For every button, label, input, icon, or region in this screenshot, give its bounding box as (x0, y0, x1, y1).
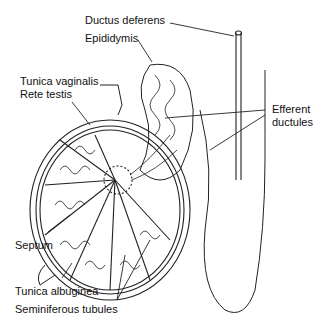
label-ductus-deferens: Ductus deferens (85, 14, 165, 26)
label-efferent-ductules-line1: Efferent (272, 103, 310, 115)
ductus-epididymis (200, 70, 265, 313)
label-septum: Septum (15, 239, 53, 251)
label-tunica-albuginea: Tunica albuginea (15, 285, 98, 297)
label-seminiferous-tubules: Seminiferous tubules (15, 303, 118, 315)
label-tunica-vaginalis: Tunica vaginalis (20, 75, 98, 87)
label-efferent-ductules-line2: ductules (272, 116, 313, 128)
label-epididymis: Epididymis (85, 32, 138, 44)
label-rete-testis: Rete testis (20, 88, 72, 100)
testis-diagram: Ductus deferens Epididymis Tunica vagina… (0, 0, 330, 335)
septa (45, 135, 170, 290)
testis-outline (30, 120, 190, 300)
